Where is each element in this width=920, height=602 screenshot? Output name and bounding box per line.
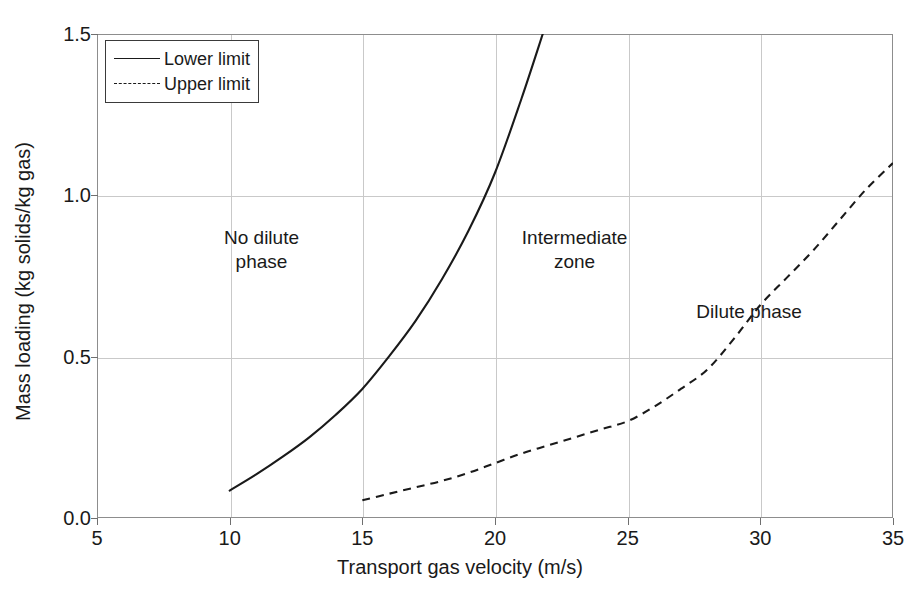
x-tick-label: 10: [200, 527, 260, 549]
x-tick-label: 5: [67, 527, 127, 549]
x-tick-mark: [230, 518, 231, 525]
gridline-horizontal: [98, 196, 892, 197]
legend-item-dashed: Upper limit: [114, 71, 250, 96]
gridline-vertical: [496, 35, 497, 517]
x-tick-mark: [362, 518, 363, 525]
page-scan-artifact: [290, 584, 710, 600]
x-tick-mark: [628, 518, 629, 525]
x-tick-label: 25: [598, 527, 658, 549]
x-axis-title: Transport gas velocity (m/s): [0, 556, 920, 579]
y-tick-mark: [91, 357, 98, 358]
annotation-dilute-phase: Dilute phase: [696, 300, 856, 324]
legend-key-solid-line-icon: [114, 53, 160, 65]
annotation-intermediate-zone: Intermediate zone: [495, 226, 655, 274]
legend-item-solid: Lower limit: [114, 46, 250, 71]
x-tick-label: 20: [465, 527, 525, 549]
chart-legend: Lower limitUpper limit: [105, 40, 259, 103]
x-tick-mark: [760, 518, 761, 525]
legend-key-dashed-line-icon: [114, 78, 160, 90]
x-tick-mark: [893, 518, 894, 525]
y-tick-mark: [91, 34, 98, 35]
y-tick-label: 0.5: [37, 347, 91, 367]
legend-item-label: Upper limit: [164, 75, 250, 93]
y-tick-label: 1.5: [37, 24, 91, 44]
y-axis-title: Mass loading (kg solids/kg gas): [12, 32, 35, 532]
gridline-vertical: [629, 35, 630, 517]
y-tick-label: 1.0: [37, 185, 91, 205]
gridline-vertical: [363, 35, 364, 517]
gridline-vertical: [231, 35, 232, 517]
y-axis-ticks: 0.00.51.01.5: [27, 0, 91, 602]
gridline-vertical: [761, 35, 762, 517]
chart-figure: 0.00.51.01.5 Transport gas velocity (m/s…: [0, 0, 920, 602]
gridline-horizontal: [98, 358, 892, 359]
x-tick-label: 35: [863, 527, 920, 549]
x-tick-label: 15: [332, 527, 392, 549]
x-tick-mark: [495, 518, 496, 525]
legend-item-label: Lower limit: [164, 50, 250, 68]
y-tick-mark: [91, 195, 98, 196]
plot-area: [97, 34, 893, 518]
y-tick-label: 0.0: [37, 508, 91, 528]
annotation-no-dilute-phase: No dilute phase: [182, 226, 342, 274]
x-tick-mark: [97, 518, 98, 525]
x-tick-label: 30: [730, 527, 790, 549]
